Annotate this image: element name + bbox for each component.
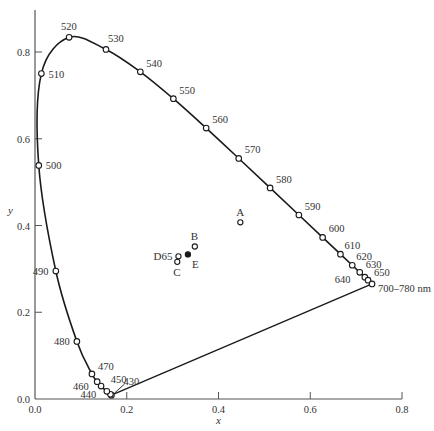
wavelength-label: 490 xyxy=(33,266,49,277)
wavelength-marker xyxy=(236,156,242,162)
x-tick-label: 0.2 xyxy=(120,404,133,415)
wavelength-label: 640 xyxy=(335,274,351,285)
wavelength-marker xyxy=(66,35,72,41)
y-tick-label: 0.0 xyxy=(17,394,30,405)
x-tick-label: 0.0 xyxy=(28,404,41,415)
x-tick-label: 0.6 xyxy=(304,404,317,415)
wavelength-label: 580 xyxy=(276,174,292,185)
wavelength-marker xyxy=(349,262,355,268)
wavelength-label: 590 xyxy=(305,201,321,212)
wavelength-label: 480 xyxy=(54,336,70,347)
illuminant-label: E xyxy=(192,258,199,270)
wavelength-label: 650 xyxy=(374,267,390,278)
chromaticity-diagram: 0.00.20.40.60.80.00.20.40.60.8 430440450… xyxy=(0,0,434,431)
wavelength-marker xyxy=(39,71,45,77)
illuminant-b xyxy=(192,244,197,249)
wavelength-label: 450 xyxy=(111,374,127,385)
wavelength-marker xyxy=(138,69,144,75)
wavelength-marker xyxy=(296,212,302,218)
wavelength-label: 520 xyxy=(61,21,77,32)
x-axis-title: x xyxy=(215,414,221,426)
wavelength-marker xyxy=(338,251,344,257)
y-tick-label: 0.2 xyxy=(17,307,30,318)
illuminant-label: A xyxy=(236,206,244,218)
y-tick-label: 0.4 xyxy=(17,221,31,232)
illuminant-label: B xyxy=(191,230,198,242)
y-tick-label: 0.6 xyxy=(17,134,30,145)
wavelength-label: 470 xyxy=(98,361,114,372)
wavelength-label: 560 xyxy=(212,114,228,125)
wavelength-label: 610 xyxy=(344,240,360,251)
illuminant-a xyxy=(238,220,243,225)
illuminant-label: D65 xyxy=(153,250,172,262)
wavelength-marker xyxy=(171,96,177,102)
wavelength-marker xyxy=(267,185,273,191)
wavelength-label: 570 xyxy=(245,144,261,155)
illuminant-c xyxy=(175,259,180,264)
wavelength-marker xyxy=(36,163,42,169)
wavelength-label: 550 xyxy=(179,85,195,96)
wavelength-marker xyxy=(203,125,209,131)
wavelength-marker xyxy=(89,371,95,377)
wavelength-marker xyxy=(94,379,100,385)
illuminant-points: ABCD65E xyxy=(153,206,244,278)
purple-line xyxy=(111,284,372,395)
y-tick-label: 0.8 xyxy=(17,47,30,58)
wavelength-marker xyxy=(369,281,375,287)
wavelength-marker xyxy=(103,47,109,53)
wavelength-label: 460 xyxy=(73,381,89,392)
wavelength-marker xyxy=(74,339,80,345)
wavelength-label: 540 xyxy=(146,58,162,69)
wavelength-marker xyxy=(320,235,326,241)
wavelength-marker xyxy=(53,268,59,274)
wavelength-label: 600 xyxy=(329,223,345,234)
wavelength-label: 530 xyxy=(108,33,124,44)
illuminant-d65 xyxy=(176,254,181,259)
wavelength-marker xyxy=(357,270,363,276)
locus-curve xyxy=(37,36,372,395)
axes: 0.00.20.40.60.80.00.20.40.60.8 xyxy=(17,10,409,415)
x-tick-label: 0.8 xyxy=(395,404,408,415)
spectral-locus: 4304404504604704804905005105205305405505… xyxy=(33,21,431,400)
wavelength-marker xyxy=(104,389,110,395)
wavelength-label: 700–780 nm xyxy=(378,283,431,294)
wavelength-label: 500 xyxy=(46,160,62,171)
illuminant-e xyxy=(185,252,190,257)
illuminant-label: C xyxy=(173,266,180,278)
y-axis-title: y xyxy=(7,204,13,216)
wavelength-label: 510 xyxy=(48,69,64,80)
